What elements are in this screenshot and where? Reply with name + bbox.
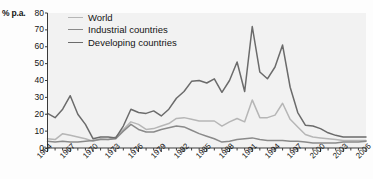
legend-item: Developing countries: [68, 36, 177, 49]
chart-plot-area: [0, 0, 373, 179]
legend-label: World: [88, 13, 113, 23]
legend-line-icon: [68, 17, 83, 18]
chart-legend: WorldIndustrial countriesDeveloping coun…: [68, 11, 177, 49]
legend-label: Developing countries: [88, 38, 177, 48]
legend-line-icon: [68, 29, 83, 30]
legend-label: Industrial countries: [88, 25, 168, 35]
legend-item: World: [68, 11, 177, 24]
chart-container: % p.a. 80706050403020100 196419671970197…: [0, 0, 373, 179]
legend-line-icon: [68, 42, 83, 43]
legend-item: Industrial countries: [68, 24, 177, 37]
